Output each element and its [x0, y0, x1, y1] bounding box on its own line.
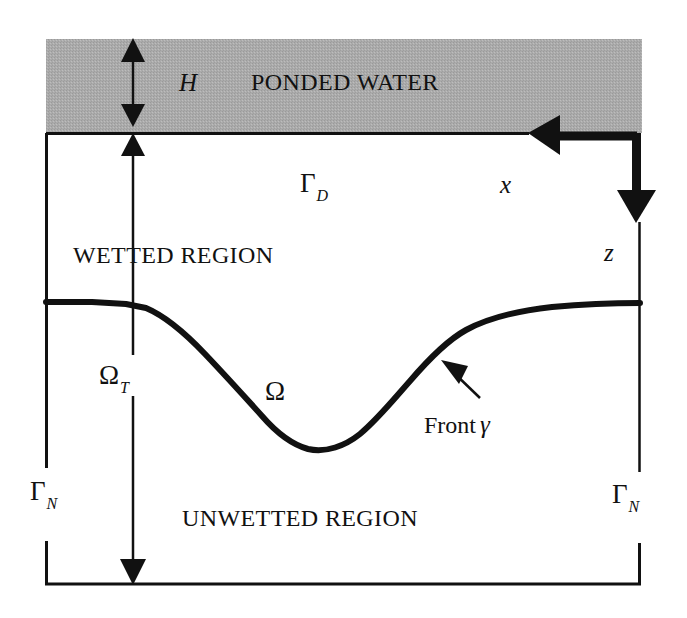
axis-z-label: z	[604, 240, 614, 265]
ponded-water-label: PONDED WATER	[251, 70, 439, 94]
front-leader-arrowhead	[441, 360, 468, 384]
front-gamma-symbol: γ	[480, 411, 490, 438]
gamma-n-left-subscript: N	[47, 495, 58, 512]
front-text: Front	[424, 412, 476, 438]
depth-arrow-omegat-head-down	[120, 559, 146, 585]
front-label: Front γ	[424, 412, 490, 437]
neumann-right-label: ΓN	[612, 481, 638, 510]
wetted-region-label: WETTED REGION	[73, 243, 273, 267]
axis-z-arrowhead	[617, 190, 656, 223]
gamma-d-subscript: D	[317, 187, 329, 204]
diagram-canvas: H PONDED WATER ΓD x z WETTED REGION ΩT Ω…	[0, 0, 687, 618]
unwetted-region-label: UNWETTED REGION	[182, 506, 418, 530]
gamma-n-right-subscript: N	[629, 498, 640, 515]
omega-t-subscript: T	[120, 379, 129, 396]
gamma-n-left-symbol: Γ	[30, 476, 46, 506]
axis-x-label: x	[500, 172, 511, 197]
gamma-n-right-symbol: Γ	[612, 479, 628, 509]
wet-domain-label: Ω	[265, 378, 285, 405]
neumann-left-label: ΓN	[30, 478, 56, 507]
total-domain-label: ΩT	[99, 362, 128, 391]
water-depth-label: H	[179, 70, 197, 95]
dirichlet-boundary-label: ΓD	[300, 170, 327, 199]
wetting-front-curve	[46, 302, 640, 450]
omega-t-symbol: Ω	[99, 360, 119, 390]
gamma-d-symbol: Γ	[300, 168, 316, 198]
